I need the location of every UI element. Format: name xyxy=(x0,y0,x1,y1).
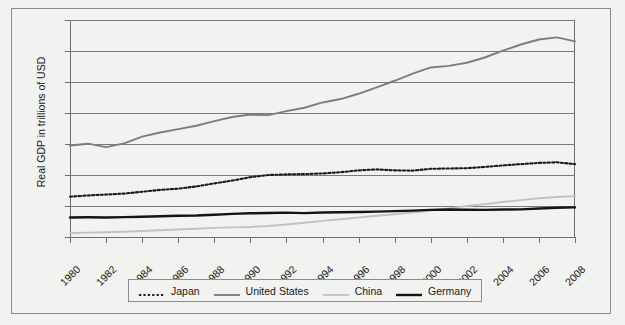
legend-label: United States xyxy=(246,285,309,297)
legend-entry-united-states[interactable]: United States xyxy=(214,285,309,297)
chart-legend: JapanUnited StatesChinaGermany xyxy=(128,279,482,302)
legend-swatch-icon xyxy=(323,286,349,296)
series-line-germany xyxy=(70,207,575,217)
legend-label: China xyxy=(355,285,382,297)
legend-swatch-icon xyxy=(396,286,422,296)
x-tick-mark xyxy=(250,237,251,243)
series-line-china xyxy=(70,196,575,233)
x-tick-mark xyxy=(323,237,324,243)
series-line-united-states xyxy=(70,37,575,147)
legend-swatch-icon xyxy=(214,286,240,296)
x-tick-mark xyxy=(70,237,71,243)
x-tick-mark xyxy=(467,237,468,243)
x-tick-mark xyxy=(214,237,215,243)
legend-entry-germany[interactable]: Germany xyxy=(396,285,471,297)
x-tick-mark xyxy=(503,237,504,243)
legend-entry-china[interactable]: China xyxy=(323,285,382,297)
y-axis-title: Real GDP in trillions of USD xyxy=(35,12,47,232)
x-tick-mark xyxy=(575,237,576,243)
x-tick-mark xyxy=(178,237,179,243)
x-tick-mark xyxy=(106,237,107,243)
series-line-japan xyxy=(70,162,575,196)
x-tick-mark xyxy=(359,237,360,243)
x-tick-mark xyxy=(395,237,396,243)
series-lines xyxy=(70,20,575,237)
legend-label: Japan xyxy=(171,285,200,297)
legend-entry-japan[interactable]: Japan xyxy=(139,285,200,297)
x-tick-mark xyxy=(142,237,143,243)
chart-figure: Real GDP in trillions of USD 02468101214… xyxy=(0,0,625,325)
plot-area: 02468101214 1980198219841986198819901992… xyxy=(70,20,575,237)
x-tick-mark xyxy=(431,237,432,243)
x-tick-mark xyxy=(286,237,287,243)
legend-label: Germany xyxy=(428,285,471,297)
x-tick-mark xyxy=(539,237,540,243)
legend-swatch-icon xyxy=(139,286,165,296)
